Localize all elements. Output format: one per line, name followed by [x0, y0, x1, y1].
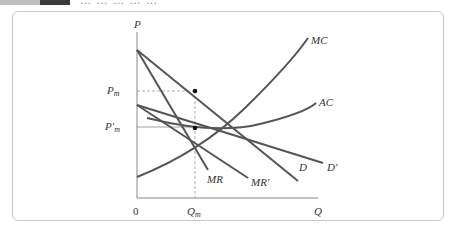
- ac-label: AC: [318, 96, 334, 108]
- mr-label: MR: [206, 173, 223, 185]
- y-axis-label: P: [133, 18, 141, 30]
- marginal-revenue-curve-mr-prime: [137, 105, 248, 178]
- d-prime-label: D′: [326, 161, 338, 173]
- origin-label: 0: [133, 205, 139, 217]
- qm-label: Qm: [187, 205, 201, 219]
- monopoly-price-point: [193, 89, 198, 94]
- marginal-revenue-curve-mr: [137, 50, 208, 170]
- monopoly-diagram: P Q 0 Pm P′m Qm MC AC D D′ MR MR′: [0, 0, 456, 233]
- x-axis-label: Q: [314, 205, 322, 217]
- d-label: D: [298, 161, 307, 173]
- marginal-cost-curve: [137, 38, 308, 177]
- mc-label: MC: [310, 34, 328, 46]
- regulated-price-point: [193, 126, 198, 131]
- pm-prime-label: P′m: [104, 120, 120, 134]
- pm-label: Pm: [106, 84, 120, 98]
- demand-curve-d: [137, 50, 298, 181]
- mr-prime-label: MR′: [250, 176, 270, 188]
